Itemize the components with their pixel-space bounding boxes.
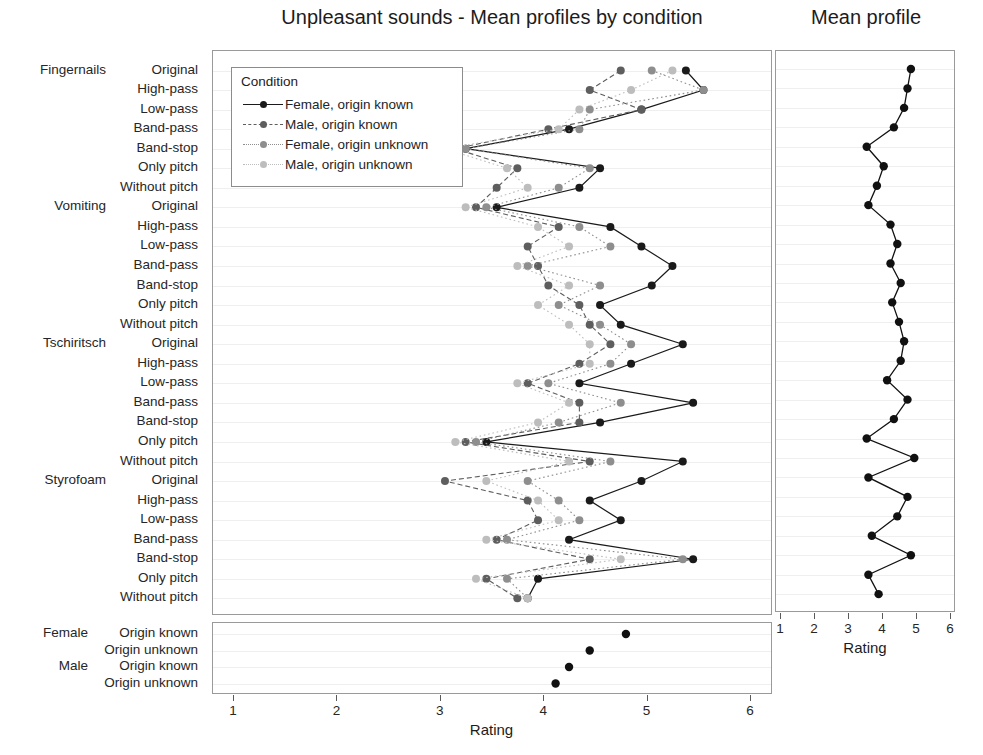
axis-tick-label: 3 bbox=[844, 621, 852, 636]
y-label-filter: Only pitch bbox=[138, 571, 198, 585]
data-point bbox=[886, 259, 894, 267]
y-label-origin: Origin unknown bbox=[104, 643, 198, 657]
axis-tick-label: 6 bbox=[746, 703, 754, 718]
data-point bbox=[596, 321, 604, 329]
data-point bbox=[617, 67, 625, 75]
axis-tick-label: 1 bbox=[776, 621, 784, 636]
legend-entry-label: Female, origin unknown bbox=[285, 138, 428, 152]
y-label-filter: Band-pass bbox=[133, 532, 198, 546]
y-label-filter: Without pitch bbox=[120, 317, 198, 331]
data-point bbox=[565, 536, 573, 544]
axis-tick bbox=[543, 695, 544, 701]
y-label-filter: Without pitch bbox=[120, 454, 198, 468]
data-point bbox=[596, 301, 604, 309]
data-point bbox=[903, 493, 911, 501]
axis-tick bbox=[950, 613, 951, 619]
data-point bbox=[513, 262, 521, 270]
data-point bbox=[900, 337, 908, 345]
data-point bbox=[648, 282, 656, 290]
axis-tick-label: 4 bbox=[539, 703, 547, 718]
data-point bbox=[503, 164, 511, 172]
data-point bbox=[451, 438, 459, 446]
data-point bbox=[575, 418, 583, 426]
data-point bbox=[482, 575, 490, 583]
data-point bbox=[900, 104, 908, 112]
y-label-filter: Original bbox=[151, 199, 198, 213]
data-point bbox=[606, 458, 614, 466]
data-point bbox=[534, 418, 542, 426]
data-point bbox=[586, 497, 594, 505]
data-point bbox=[575, 399, 583, 407]
axis-tick-label: 4 bbox=[878, 621, 886, 636]
series-line bbox=[466, 71, 704, 599]
legend-key-icon bbox=[241, 157, 285, 173]
data-point bbox=[503, 575, 511, 583]
data-point bbox=[534, 575, 542, 583]
y-label-filter: Band-stop bbox=[136, 141, 198, 155]
data-point bbox=[586, 555, 594, 563]
mean-profile-panel bbox=[775, 50, 955, 612]
y-label-filter: High-pass bbox=[137, 356, 198, 370]
data-point bbox=[551, 679, 559, 687]
data-point bbox=[907, 551, 915, 559]
axis-tick bbox=[916, 613, 917, 619]
y-label-filter: Band-stop bbox=[136, 551, 198, 565]
data-point bbox=[596, 164, 604, 172]
y-label-filter: Band-stop bbox=[136, 414, 198, 428]
data-point bbox=[637, 106, 645, 114]
data-point bbox=[895, 318, 903, 326]
y-label-filter: Low-pass bbox=[140, 512, 198, 526]
data-point bbox=[864, 473, 872, 481]
data-point bbox=[668, 67, 676, 75]
data-point bbox=[864, 201, 872, 209]
y-label-sound-group: Vomiting bbox=[54, 199, 106, 213]
axis-tick-label: 5 bbox=[912, 621, 920, 636]
axis-tick bbox=[814, 613, 815, 619]
data-point bbox=[524, 242, 532, 250]
data-point bbox=[524, 379, 532, 387]
axis-tick-label: 6 bbox=[946, 621, 954, 636]
y-label-sound-group: Tschiritsch bbox=[43, 336, 106, 350]
bottom-y-axis-labels: Origin knownFemaleOrigin unknownOrigin k… bbox=[0, 622, 206, 694]
legend-entries: Female, origin knownMale, origin knownFe… bbox=[241, 95, 454, 175]
data-point bbox=[873, 182, 881, 190]
data-point bbox=[565, 399, 573, 407]
data-point bbox=[555, 301, 563, 309]
y-label-filter: Original bbox=[151, 336, 198, 350]
y-label-filter: Without pitch bbox=[120, 590, 198, 604]
data-point bbox=[482, 477, 490, 485]
data-point bbox=[586, 646, 594, 654]
data-point bbox=[617, 399, 625, 407]
chart-root: Unpleasant sounds - Mean profiles by con… bbox=[0, 0, 983, 755]
legend-entry[interactable]: Male, origin known bbox=[241, 115, 454, 135]
axis-tick bbox=[848, 613, 849, 619]
data-point bbox=[565, 663, 573, 671]
axis-tick bbox=[233, 695, 234, 701]
overall-means-series bbox=[551, 630, 630, 688]
data-point bbox=[689, 399, 697, 407]
legend-entry[interactable]: Female, origin unknown bbox=[241, 135, 454, 155]
data-point bbox=[886, 220, 894, 228]
data-point bbox=[555, 223, 563, 231]
data-point bbox=[689, 555, 697, 563]
legend-entry[interactable]: Male, origin unknown bbox=[241, 155, 454, 175]
y-label-filter: Low-pass bbox=[140, 238, 198, 252]
data-point bbox=[555, 516, 563, 524]
y-label-filter: Band-pass bbox=[133, 121, 198, 135]
data-point bbox=[555, 125, 563, 133]
data-point bbox=[575, 301, 583, 309]
overall-means-plot bbox=[213, 623, 772, 694]
legend-entry-label: Female, origin known bbox=[285, 98, 413, 112]
legend-entry[interactable]: Female, origin known bbox=[241, 95, 454, 115]
series-group bbox=[462, 67, 708, 603]
data-point bbox=[627, 340, 635, 348]
data-point bbox=[534, 516, 542, 524]
data-point bbox=[883, 376, 891, 384]
data-point bbox=[622, 630, 630, 638]
axis-tick bbox=[750, 695, 751, 701]
data-point bbox=[617, 321, 625, 329]
y-label-filter: Low-pass bbox=[140, 375, 198, 389]
y-label-filter: High-pass bbox=[137, 493, 198, 507]
data-point bbox=[534, 497, 542, 505]
axis-tick-label: 5 bbox=[643, 703, 651, 718]
